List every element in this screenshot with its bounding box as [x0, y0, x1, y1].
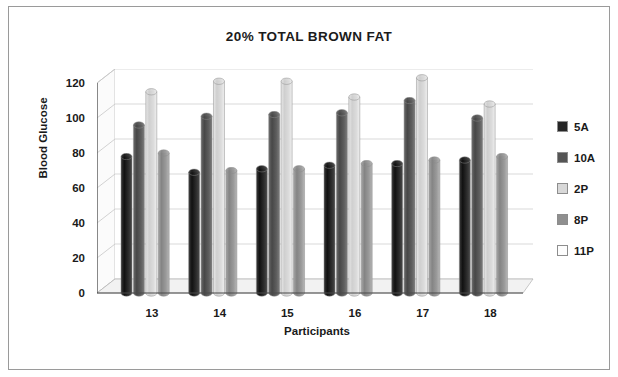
plot-area: 020406080100120 131415161718: [97, 69, 537, 301]
chart-title: 20% TOTAL BROWN FAT: [9, 29, 609, 44]
legend-swatch-icon: [557, 245, 568, 256]
x-axis-tick-label: 13: [130, 307, 174, 319]
chart-frame: 20% TOTAL BROWN FAT Blood Glucose: [8, 6, 610, 370]
legend-item-label: 10A: [574, 152, 595, 164]
legend-swatch-icon: [557, 183, 568, 194]
y-axis-title-text: Blood Glucose: [37, 97, 49, 178]
x-axis-tick-label: 15: [265, 307, 309, 319]
legend-item-label: 2P: [574, 183, 588, 195]
chart-canvas: [97, 69, 537, 309]
legend-item[interactable]: 11P: [557, 235, 617, 266]
legend-item[interactable]: 5A: [557, 111, 617, 142]
x-axis-tick-label: 17: [401, 307, 445, 319]
legend-item-label: 8P: [574, 214, 588, 226]
y-axis-tick-label: 120: [66, 77, 85, 89]
legend-swatch-icon: [557, 121, 568, 132]
x-axis-tick-label: 16: [333, 307, 377, 319]
x-axis-title: Participants: [97, 325, 537, 337]
chart-legend: 5A10A2P8P11P: [557, 111, 617, 266]
legend-item-label: 5A: [574, 121, 589, 133]
y-axis-tick-label: 0: [79, 287, 85, 299]
y-axis-title: Blood Glucose: [23, 0, 35, 117]
y-axis-tick-label: 80: [72, 147, 85, 159]
y-axis-tick-label: 40: [72, 217, 85, 229]
y-axis-tick-label: 100: [66, 112, 85, 124]
y-axis-tick-label: 60: [72, 182, 85, 194]
legend-swatch-icon: [557, 214, 568, 225]
legend-item[interactable]: 8P: [557, 204, 617, 235]
x-axis-tick-label: 14: [198, 307, 242, 319]
legend-swatch-icon: [557, 152, 568, 163]
legend-item[interactable]: 10A: [557, 142, 617, 173]
y-axis-tick-label: 20: [72, 252, 85, 264]
legend-item-label: 11P: [574, 245, 594, 257]
legend-item[interactable]: 2P: [557, 173, 617, 204]
x-axis-tick-label: 18: [468, 307, 512, 319]
